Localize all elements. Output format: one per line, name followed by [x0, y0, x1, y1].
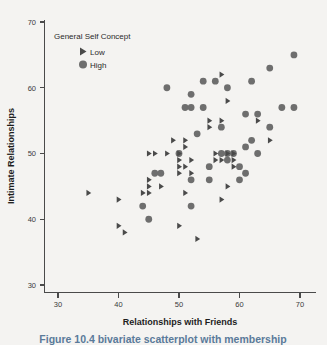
data-point-low	[177, 164, 182, 170]
data-point-low	[177, 157, 182, 163]
data-point-high	[188, 203, 195, 210]
data-point-low	[165, 150, 170, 156]
data-point-low	[141, 190, 146, 196]
scatterplot-figure: 3040506070 3040506070 Relationships with…	[0, 0, 327, 345]
data-point-low	[256, 118, 261, 124]
data-point-low	[189, 170, 194, 176]
y-tick-label: 60	[28, 84, 36, 93]
figure-caption: Figure 10.4 bivariate scatterplot with m…	[39, 333, 286, 345]
x-tick-label: 60	[235, 300, 243, 309]
data-point-high	[218, 150, 225, 157]
data-point-low	[226, 98, 231, 104]
data-point-high	[164, 84, 171, 91]
data-point-high	[266, 124, 273, 131]
data-point-low	[123, 229, 128, 235]
data-point-low	[189, 157, 194, 163]
x-axis-title: Relationships with Friends	[123, 317, 238, 327]
data-point-low	[183, 190, 188, 196]
data-point-high	[291, 104, 298, 111]
data-point-low	[159, 183, 164, 189]
data-point-high	[212, 78, 219, 85]
data-point-high	[254, 150, 261, 157]
data-point-high	[242, 144, 249, 151]
x-tick-label: 30	[54, 300, 62, 309]
data-point-low	[153, 150, 158, 156]
x-axis-ticks: 3040506070	[54, 293, 304, 310]
data-points-high	[139, 51, 297, 222]
data-point-low	[220, 157, 225, 163]
data-point-low	[177, 223, 182, 229]
data-point-high	[157, 170, 164, 177]
data-point-low	[117, 196, 122, 202]
legend-label-low: Low	[90, 48, 105, 57]
data-point-high	[266, 65, 273, 72]
y-tick-label: 30	[28, 281, 36, 290]
data-point-low	[183, 164, 188, 170]
data-point-low	[171, 137, 176, 143]
data-point-low	[147, 183, 152, 189]
data-point-high	[200, 104, 207, 111]
data-point-high	[206, 163, 213, 170]
data-point-low	[183, 137, 188, 143]
data-point-low	[86, 190, 91, 196]
data-point-low	[220, 71, 225, 77]
data-point-low	[220, 118, 225, 124]
data-point-high	[242, 111, 249, 118]
legend-title: General Self Concept	[54, 32, 131, 41]
data-point-high	[145, 216, 152, 223]
data-point-low	[214, 157, 219, 163]
data-point-low	[147, 177, 152, 183]
data-point-high	[188, 104, 195, 111]
data-point-high	[254, 111, 261, 118]
data-point-high	[182, 104, 189, 111]
data-point-low	[147, 190, 152, 196]
data-point-high	[188, 176, 195, 183]
data-point-high	[242, 170, 249, 177]
data-point-low	[207, 124, 212, 130]
data-point-low	[220, 196, 225, 202]
legend-circle-icon	[79, 61, 87, 69]
y-axis-ticks: 3040506070	[28, 18, 45, 290]
legend: General Self Concept Low High	[54, 32, 131, 70]
data-point-low	[232, 157, 237, 163]
legend-label-high: High	[90, 61, 106, 70]
data-point-low	[207, 118, 212, 124]
data-point-high	[224, 84, 231, 91]
data-point-high	[224, 157, 231, 164]
data-point-high	[218, 124, 225, 131]
data-point-high	[188, 91, 195, 98]
data-point-high	[248, 137, 255, 144]
y-tick-label: 50	[28, 149, 36, 158]
y-axis-title: Intimate Relationships	[6, 108, 16, 204]
data-point-high	[248, 78, 255, 85]
data-point-high	[151, 170, 158, 177]
data-point-low	[214, 150, 219, 156]
data-point-high	[200, 78, 207, 85]
data-point-high	[194, 130, 201, 137]
data-point-low	[177, 170, 182, 176]
data-point-low	[268, 137, 273, 143]
data-point-high	[206, 176, 213, 183]
x-tick-label: 40	[114, 300, 122, 309]
data-point-low	[147, 150, 152, 156]
data-point-low	[226, 183, 231, 189]
data-point-high	[278, 104, 285, 111]
data-point-high	[236, 176, 243, 183]
x-tick-label: 70	[296, 300, 304, 309]
data-point-high	[236, 163, 243, 170]
y-tick-label: 40	[28, 215, 36, 224]
data-point-low	[117, 223, 122, 229]
legend-triangle-right-icon	[80, 48, 87, 56]
data-point-high	[291, 51, 298, 58]
x-tick-label: 50	[175, 300, 183, 309]
data-point-high	[139, 203, 146, 210]
data-point-low	[195, 236, 200, 242]
data-point-low	[232, 164, 237, 170]
data-point-low	[183, 144, 188, 150]
y-tick-label: 70	[28, 18, 36, 27]
scatterplot-canvas: 3040506070 3040506070 Relationships with…	[0, 0, 327, 345]
